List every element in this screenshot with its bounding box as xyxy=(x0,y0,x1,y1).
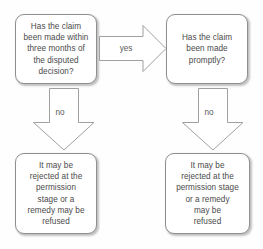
arrow-down-no-right-icon xyxy=(182,88,244,151)
arrow-label-no-right: no xyxy=(197,108,221,118)
outcome-box-left: It may be rejected at the permission sta… xyxy=(15,153,97,234)
decision-box-three-months-label: Has the claim been made within three mon… xyxy=(20,21,93,77)
outcome-box-right-label: It may be rejected at the permission sta… xyxy=(172,160,243,227)
outcome-box-right: It may be rejected at the permission sta… xyxy=(165,153,250,234)
arrow-label-yes: yes xyxy=(110,44,142,54)
outcome-box-left-label: It may be rejected at the permission sta… xyxy=(23,160,88,227)
flowchart-canvas: Has the claim been made within three mon… xyxy=(0,0,263,249)
decision-box-promptly: Has the claim been made promptly? xyxy=(166,14,248,84)
decision-box-promptly-label: Has the claim been made promptly? xyxy=(178,32,236,66)
decision-box-three-months: Has the claim been made within three mon… xyxy=(15,14,97,84)
arrow-label-no-left: no xyxy=(48,108,72,118)
arrow-down-no-left-icon xyxy=(33,88,95,151)
